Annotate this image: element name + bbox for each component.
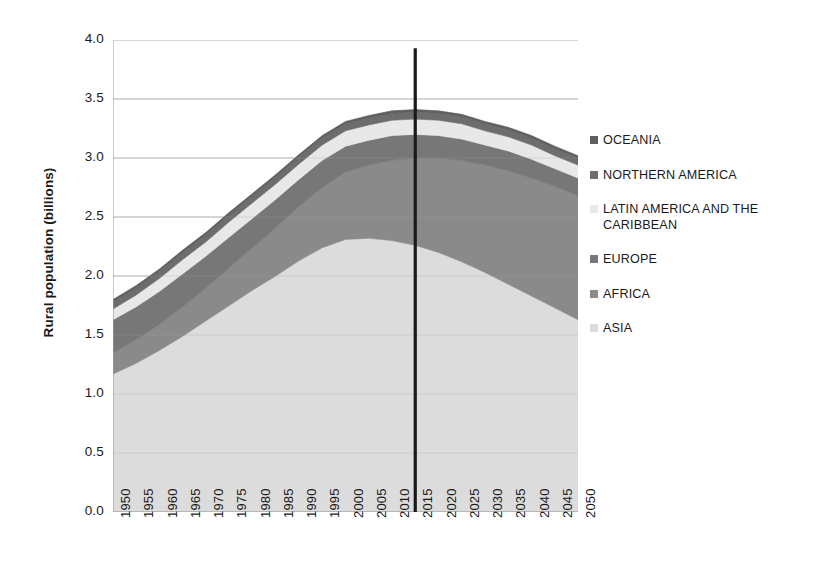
x-tick-label: 2005 <box>374 488 389 518</box>
y-tick-label: 3.5 <box>58 90 104 105</box>
y-tick-label: 1.5 <box>58 326 104 341</box>
y-tick-label: 0.0 <box>58 503 104 518</box>
legend-item-label: OCEANIA <box>603 133 661 149</box>
rural-population-chart: Rural population (billions) 4.03.53.02.5… <box>0 0 820 579</box>
x-tick-label: 2010 <box>397 488 412 518</box>
y-tick-label: 3.0 <box>58 149 104 164</box>
x-tick-label: 1985 <box>281 488 296 518</box>
x-tick-label: 2020 <box>444 488 459 518</box>
stacked-area-svg <box>113 40 578 512</box>
y-tick-label: 2.0 <box>58 267 104 282</box>
legend-swatch-icon <box>590 255 598 263</box>
legend-item[interactable]: OCEANIA <box>590 133 812 149</box>
plot-area <box>113 40 578 512</box>
x-tick-label: 2015 <box>420 488 435 518</box>
x-tick-label: 1995 <box>327 488 342 518</box>
legend-swatch-icon <box>590 290 598 298</box>
y-tick-label: 2.5 <box>58 208 104 223</box>
legend-swatch-icon <box>590 136 598 144</box>
x-tick-label: 2035 <box>513 488 528 518</box>
x-tick-label: 1955 <box>141 488 156 518</box>
legend-item[interactable]: LATIN AMERICA AND THE CARIBBEAN <box>590 202 812 233</box>
x-tick-label: 1965 <box>188 488 203 518</box>
legend-swatch-icon <box>590 205 598 213</box>
y-tick-label: 4.0 <box>58 31 104 46</box>
x-tick-label: 1990 <box>304 488 319 518</box>
x-tick-label: 2025 <box>467 488 482 518</box>
legend-item-label: NORTHERN AMERICA <box>603 168 737 184</box>
legend-item-label: AFRICA <box>603 287 650 303</box>
x-tick-label: 2045 <box>560 488 575 518</box>
legend-item[interactable]: AFRICA <box>590 287 812 303</box>
y-axis-title: Rural population (billions) <box>41 123 56 383</box>
legend-item[interactable]: ASIA <box>590 321 812 337</box>
legend-swatch-icon <box>590 171 598 179</box>
x-tick-label: 1970 <box>211 488 226 518</box>
legend-item-label: LATIN AMERICA AND THE CARIBBEAN <box>603 202 812 233</box>
x-tick-label: 1980 <box>258 488 273 518</box>
legend-item[interactable]: EUROPE <box>590 252 812 268</box>
x-tick-label: 2050 <box>583 488 598 518</box>
legend-item-label: ASIA <box>603 321 632 337</box>
x-tick-label: 1950 <box>118 488 133 518</box>
x-tick-label: 2000 <box>351 488 366 518</box>
y-tick-label: 1.0 <box>58 385 104 400</box>
y-tick-label: 0.5 <box>58 444 104 459</box>
x-tick-label: 1975 <box>234 488 249 518</box>
legend-item[interactable]: NORTHERN AMERICA <box>590 168 812 184</box>
legend-item-label: EUROPE <box>603 252 657 268</box>
x-tick-label: 2030 <box>490 488 505 518</box>
x-tick-label: 1960 <box>165 488 180 518</box>
legend-swatch-icon <box>590 324 598 332</box>
x-tick-label: 2040 <box>537 488 552 518</box>
chart-legend: OCEANIANORTHERN AMERICALATIN AMERICA AND… <box>590 133 812 356</box>
